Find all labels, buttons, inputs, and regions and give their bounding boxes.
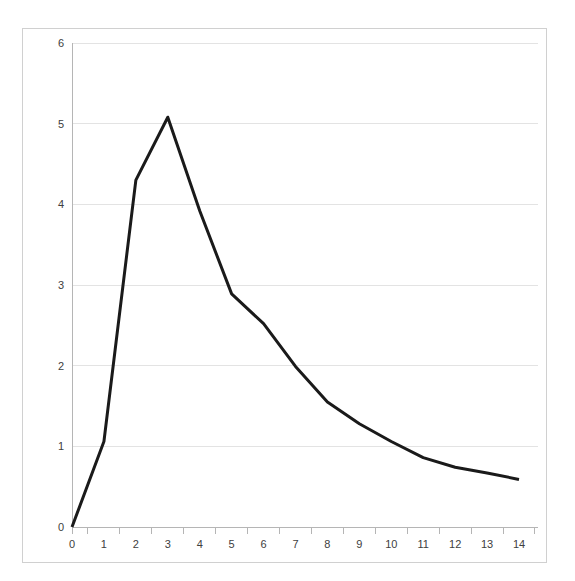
- gridlines: [72, 43, 538, 446]
- x-tick-label: 8: [324, 539, 330, 550]
- plot-area: [0, 0, 575, 581]
- x-tick-label: 7: [292, 539, 298, 550]
- y-tick-label: 4: [32, 199, 64, 210]
- x-tick-label: 13: [481, 539, 493, 550]
- x-tick-label: 12: [449, 539, 461, 550]
- x-tick-label: 10: [385, 539, 397, 550]
- x-tick-label: 3: [165, 539, 171, 550]
- line-chart: 0123456 01234567891011121314: [0, 0, 575, 581]
- x-tick-label: 4: [197, 539, 203, 550]
- x-tick-label: 1: [101, 539, 107, 550]
- y-tick-label: 1: [32, 441, 64, 452]
- y-tick-label: 6: [32, 38, 64, 49]
- y-tick-label: 2: [32, 360, 64, 371]
- x-tick-label: 0: [69, 539, 75, 550]
- x-tick-label: 9: [356, 539, 362, 550]
- x-tick-label: 11: [417, 539, 428, 550]
- y-tick-label: 0: [32, 522, 64, 533]
- x-tick-label: 14: [513, 539, 525, 550]
- data-series-line: [72, 117, 519, 527]
- x-tick-label: 6: [261, 539, 267, 550]
- y-tick-label: 3: [32, 280, 64, 291]
- y-tick-label: 5: [32, 118, 64, 129]
- series-polyline: [72, 117, 519, 527]
- x-tick-label: 2: [133, 539, 139, 550]
- x-axis-ticks: [72, 527, 535, 534]
- x-tick-label: 5: [229, 539, 235, 550]
